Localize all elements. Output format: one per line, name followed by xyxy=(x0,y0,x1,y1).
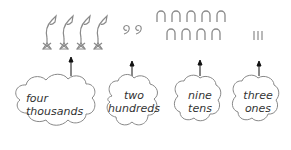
coil-icon xyxy=(136,26,142,35)
arch-icon xyxy=(182,29,190,40)
arch-icon xyxy=(202,11,210,22)
lotus-glyphs-thousands xyxy=(43,16,107,49)
arch-icon xyxy=(167,29,175,40)
diagram-canvas xyxy=(0,0,291,150)
arch-icon xyxy=(197,29,205,40)
arrow-up-icon xyxy=(198,60,202,76)
cloud-line-1: two xyxy=(106,89,162,102)
lotus-icon xyxy=(77,16,90,49)
arrow-up-icon xyxy=(69,57,73,76)
arch-icon xyxy=(157,11,165,22)
cloud-line-2: hundreds xyxy=(106,102,162,115)
cloud-line-1: three xyxy=(234,89,282,102)
cloud-label-tens: nine tens xyxy=(178,89,222,115)
cloud-label-thousands: four thousands xyxy=(22,92,92,118)
rope-glyphs-hundreds xyxy=(124,26,142,35)
cloud-label-ones: three ones xyxy=(234,89,282,115)
arrow-up-icon xyxy=(257,61,261,76)
lotus-icon xyxy=(43,16,56,49)
cloud-line-2: ones xyxy=(234,102,282,115)
cloud-line-1: nine xyxy=(178,89,222,102)
lotus-icon xyxy=(94,16,107,49)
arch-icon xyxy=(172,11,180,22)
arch-icon xyxy=(217,11,225,22)
cloud-label-hundreds: two hundreds xyxy=(106,89,162,115)
arch-glyphs-tens xyxy=(157,11,225,40)
arrow-up-icon xyxy=(130,61,134,76)
arch-icon xyxy=(212,29,220,40)
cloud-line-2: thousands xyxy=(22,105,92,118)
arch-icon xyxy=(187,11,195,22)
arrows xyxy=(69,57,261,76)
stroke-glyphs-ones xyxy=(254,31,262,40)
coil-icon xyxy=(124,26,130,35)
cloud-line-2: tens xyxy=(178,102,222,115)
cloud-line-1: four xyxy=(22,92,92,105)
lotus-icon xyxy=(60,16,73,49)
